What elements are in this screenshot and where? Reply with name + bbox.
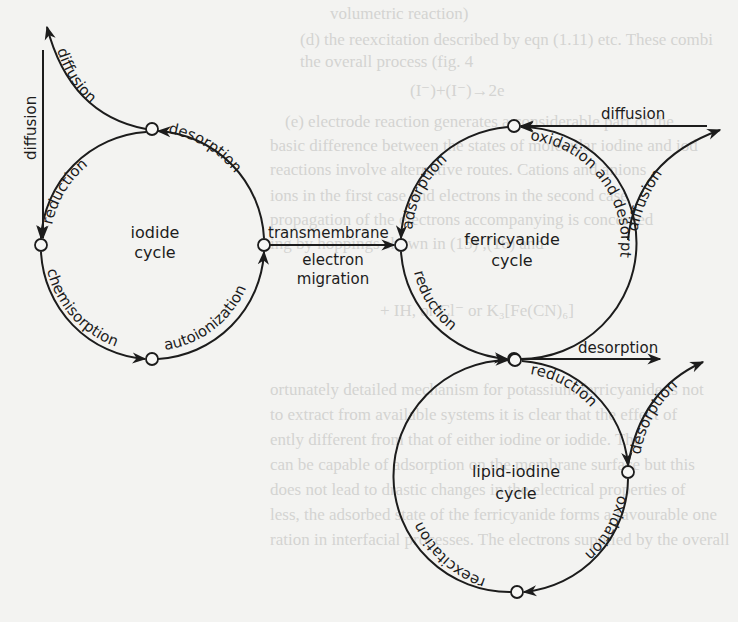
label-chemisorption: chemisorption xyxy=(43,266,121,350)
node-lipid-bottom xyxy=(511,586,523,598)
label-desorption-curve: desorption xyxy=(626,376,681,456)
label-oxidation: oxidation xyxy=(582,494,632,564)
node-iodide-left xyxy=(35,239,47,251)
label-diffusion-top: diffusion xyxy=(601,105,665,123)
node-iodide-top xyxy=(146,123,158,135)
label-reduction: reduction xyxy=(529,360,601,410)
node-ferricyanide-top xyxy=(508,120,520,132)
label-reexcitation: reexcitation xyxy=(409,519,487,592)
transmembrane-link: transmembrane electron migration xyxy=(268,224,394,288)
node-ferricyanide-left xyxy=(395,239,407,251)
iodide-cycle-subtitle: cycle xyxy=(134,243,175,262)
label-reduction: reduction xyxy=(38,155,91,226)
label-diffusion-curve: diffusion xyxy=(53,46,100,107)
iodide-cycle: iodide cycle desorption reduction chemis… xyxy=(22,27,270,365)
lipid-iodine-cycle-title: lipid-iodine xyxy=(472,462,560,481)
label-diffusion-curve: diffusion xyxy=(623,165,665,232)
label-migration: migration xyxy=(297,270,369,288)
node-shared-ferricyanide-lipid xyxy=(509,354,521,366)
cycle-diagram: iodide cycle desorption reduction chemis… xyxy=(0,0,738,622)
label-desorption-horizontal: desorption xyxy=(578,339,658,357)
ferricyanide-cycle: ferricyanide cycle adsorption oxidation … xyxy=(0,0,720,365)
lipid-iodine-cycle: lipid-iodine cycle reduction oxidation r… xyxy=(393,360,703,598)
ferricyanide-cycle-title: ferricyanide xyxy=(464,230,559,249)
label-oxidation-and-desorption: oxidation and desorption xyxy=(0,0,635,259)
lipid-iodine-cycle-subtitle: cycle xyxy=(495,484,536,503)
label-desorption: desorption xyxy=(167,119,246,176)
label-reduction: reduction xyxy=(410,268,461,334)
label-transmembrane: transmembrane xyxy=(268,224,389,242)
label-diffusion-vertical: diffusion xyxy=(22,96,40,160)
label-electron: electron xyxy=(302,251,363,269)
diffusion-out-arrow xyxy=(47,27,146,129)
node-lipid-right xyxy=(622,466,634,478)
label-autoionization: autoionization xyxy=(162,282,249,354)
iodide-cycle-title: iodide xyxy=(131,223,180,242)
ferricyanide-cycle-subtitle: cycle xyxy=(491,251,532,270)
label-adsorption: adsorption xyxy=(398,150,450,231)
node-iodide-bottom xyxy=(146,353,158,365)
figure-page: volumetric reaction) (d) the reexcitatio… xyxy=(0,0,738,622)
